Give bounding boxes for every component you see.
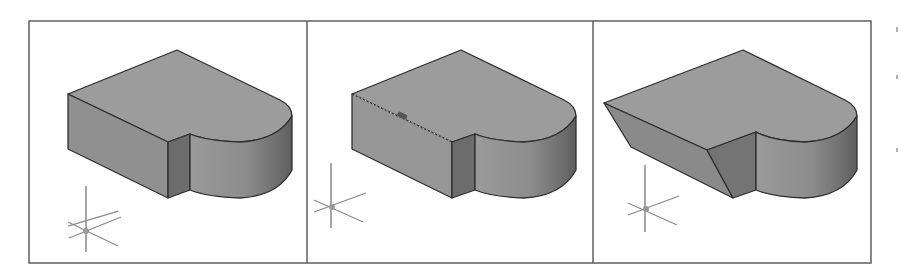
figure-canvas — [0, 0, 901, 278]
notch-face — [452, 134, 475, 198]
margin-marks — [896, 27, 898, 152]
notch-face — [168, 134, 190, 198]
